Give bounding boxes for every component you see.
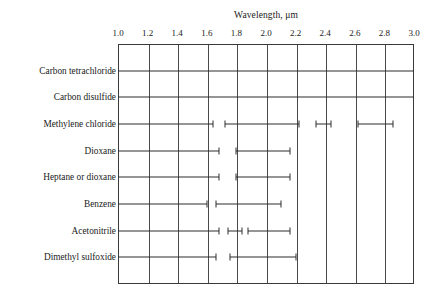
category-label: Carbon tetrachloride [4,65,116,76]
gridline [237,45,238,283]
category-label: Heptane or dioxane [4,172,116,183]
x-tick-label: 1.0 [112,27,123,39]
x-tick-label: 2.6 [349,27,360,39]
x-tick-label: 2.8 [379,27,390,39]
x-tick-label: 2.2 [290,27,301,39]
category-label: Carbon disulfide [4,92,116,103]
gridline [326,45,327,283]
category-label: Dimethyl sulfoxide [4,252,116,263]
x-tick-label: 1.8 [231,27,242,39]
x-tick-label: 1.2 [142,27,153,39]
nir-solvent-transmission-chart: Wavelength, μm 1.01.21.41.61.82.02.22.42… [0,0,432,295]
category-labels: Carbon tetrachlorideCarbon disulfideMeth… [0,44,116,284]
category-label: Acetonitrile [4,225,116,236]
chart-title: Wavelength, μm [118,10,414,20]
gridline [178,45,179,283]
x-axis-tick-labels: 1.01.21.41.61.82.02.22.42.62.83.0 [0,27,432,41]
gridline [356,45,357,283]
x-tick-label: 1.4 [172,27,183,39]
x-tick-label: 1.6 [201,27,212,39]
plot-frame [118,44,414,284]
gridline [297,45,298,283]
x-tick-label: 2.4 [320,27,331,39]
category-label: Methylene chloride [4,119,116,130]
gridline [385,45,386,283]
gridline [267,45,268,283]
x-tick-label: 3.0 [408,27,419,39]
gridline [149,45,150,283]
gridline [208,45,209,283]
category-label: Dioxane [4,145,116,156]
x-tick-label: 2.0 [260,27,271,39]
category-label: Benzene [4,199,116,210]
